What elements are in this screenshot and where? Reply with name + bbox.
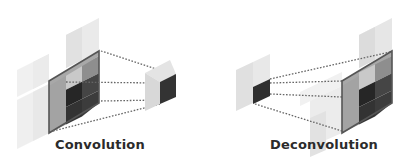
conv-output-cell (145, 60, 176, 111)
convolution-label: Convolution (55, 137, 145, 152)
deconv-input-cell (236, 54, 270, 111)
convolution-diagram (17, 18, 176, 149)
deconvolution-label: Deconvolution (270, 137, 378, 152)
